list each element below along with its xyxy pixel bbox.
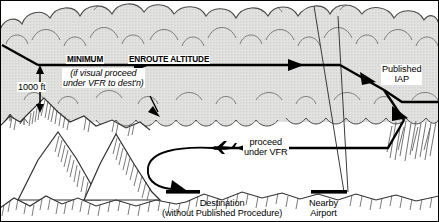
destination-line-1: Destination [162, 198, 282, 208]
minimum-label: MINIMUM [66, 55, 104, 64]
nearby-runway-bar [311, 190, 347, 194]
vfr-route-to-destination [148, 148, 214, 189]
nearby-airport-label: Nearby Airport [309, 198, 338, 219]
aviation-procedure-diagram: MINIMUM ENROUTE ALTITUDE (if visual proc… [0, 0, 439, 222]
clearance-label: 1000 ft [17, 82, 46, 92]
aircraft-silhouette [210, 141, 237, 154]
nearby-line-2: Airport [309, 208, 338, 218]
proceed-line-2: under VFR [244, 147, 288, 157]
rain-shafts [387, 121, 436, 161]
proceed-line-1: proceed [244, 137, 288, 147]
vfr-note: (if visual proceed under VFR to dest'n) [62, 68, 145, 88]
vfr-note-line-2: under VFR to dest'n) [63, 78, 144, 88]
published-iap-label: Published IAP [381, 64, 422, 85]
diagram-canvas [0, 0, 439, 222]
destination-label: Destination (without Published Procedure… [162, 198, 282, 219]
nearby-line-1: Nearby [309, 198, 338, 208]
destination-line-2: (without Published Procedure) [162, 208, 282, 218]
published-iap-line-2: IAP [382, 74, 421, 84]
vfr-note-line-1: (if visual proceed [63, 68, 144, 78]
destination-runway-bar [166, 190, 200, 194]
published-iap-line-1: Published [382, 64, 421, 74]
enroute-altitude-label: ENROUTE ALTITUDE [128, 55, 210, 64]
proceed-under-vfr-label: proceed under VFR [243, 137, 289, 158]
